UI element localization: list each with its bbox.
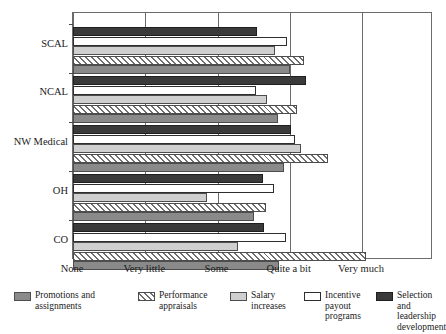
bar-co-performance-appraisals [73, 252, 366, 261]
bars-layer [73, 13, 431, 258]
legend-label: Incentive payout programs [325, 290, 361, 322]
bar-nw-medical-selection-and-leadership-development [73, 125, 291, 134]
legend-swatch-icon [138, 292, 155, 301]
bar-chart: SCAL NCAL NW Medical OH CO NoneVery litt… [0, 0, 446, 334]
y-axis-label-oh: OH [0, 185, 68, 196]
y-axis-label-nw-medical: NW Medical [0, 136, 68, 147]
y-axis-label-text: NW Medical [14, 136, 68, 147]
legend-item-selection-and-leadership-development[interactable]: Selection and leadership development [376, 290, 446, 332]
legend-label: Salary increases [251, 290, 286, 311]
x-tick-label: Some [205, 263, 229, 274]
y-axis-label-scal: SCAL [0, 38, 68, 49]
legend-swatch-icon [376, 292, 393, 301]
legend-item-salary-increases[interactable]: Salary increases [230, 290, 286, 311]
y-axis-label-ncal: NCAL [0, 86, 68, 97]
bar-scal-promotions-and-assignments [73, 65, 290, 74]
legend-item-performance-appraisals[interactable]: Performance appraisals [138, 290, 208, 311]
y-axis-label-co: CO [0, 234, 68, 245]
bar-oh-promotions-and-assignments [73, 212, 254, 221]
bar-scal-salary-increases [73, 46, 275, 55]
bar-oh-salary-increases [73, 193, 207, 202]
y-axis-label-text: SCAL [41, 38, 68, 49]
bar-co-incentive-payout-programs [73, 233, 286, 242]
x-tick-label: Very much [338, 263, 384, 274]
x-tick-label: Very little [123, 263, 165, 274]
legend-label: Promotions and assignments [35, 290, 95, 311]
x-tick-label: Quite a bit [267, 263, 311, 274]
bar-nw-medical-performance-appraisals [73, 154, 328, 163]
legend-swatch-icon [230, 292, 247, 301]
legend-label: Performance appraisals [159, 290, 208, 311]
legend: Promotions and assignmentsPerformance ap… [14, 290, 438, 334]
bar-ncal-salary-increases [73, 95, 267, 104]
y-axis-label-text: OH [53, 185, 68, 196]
legend-swatch-icon [14, 292, 31, 301]
legend-item-incentive-payout-programs[interactable]: Incentive payout programs [304, 290, 361, 322]
bar-nw-medical-salary-increases [73, 144, 301, 153]
plot-area [72, 12, 432, 259]
bar-ncal-performance-appraisals [73, 105, 297, 114]
y-axis-label-text: CO [53, 234, 68, 245]
bar-scal-performance-appraisals [73, 56, 304, 65]
bar-ncal-selection-and-leadership-development [73, 76, 306, 85]
bar-co-selection-and-leadership-development [73, 223, 264, 232]
legend-swatch-icon [304, 292, 321, 301]
bar-ncal-incentive-payout-programs [73, 86, 256, 95]
bar-scal-incentive-payout-programs [73, 37, 287, 46]
bar-scal-selection-and-leadership-development [73, 27, 257, 36]
bar-oh-performance-appraisals [73, 203, 266, 212]
bar-oh-incentive-payout-programs [73, 184, 274, 193]
y-axis-label-text: NCAL [39, 86, 68, 97]
legend-item-promotions-and-assignments[interactable]: Promotions and assignments [14, 290, 95, 311]
bar-co-salary-increases [73, 242, 238, 251]
bar-co-promotions-and-assignments [73, 261, 279, 270]
bar-oh-selection-and-leadership-development [73, 174, 263, 183]
x-tick-label: None [61, 263, 84, 274]
bar-nw-medical-promotions-and-assignments [73, 163, 284, 172]
bar-ncal-promotions-and-assignments [73, 114, 278, 123]
bar-nw-medical-incentive-payout-programs [73, 135, 295, 144]
legend-label: Selection and leadership development [397, 290, 446, 332]
